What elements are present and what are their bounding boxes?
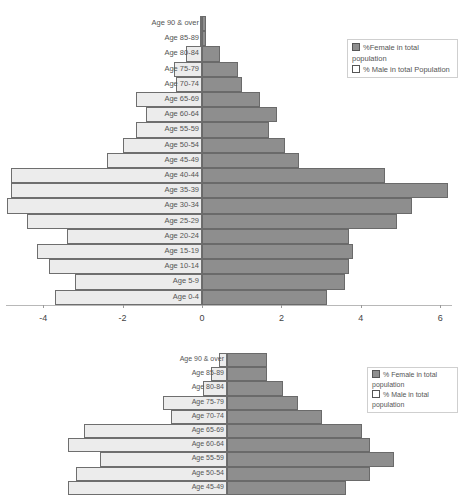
female-bar [202, 138, 285, 153]
female-bar [202, 244, 353, 259]
female-swatch-icon [352, 43, 360, 51]
age-group-label: Age 55-59 [192, 454, 224, 461]
female-bar [202, 122, 269, 137]
pyramid-row: Age 40-44 [0, 168, 458, 183]
male-swatch-icon [372, 390, 380, 398]
age-group-label: Age 30-34 [164, 200, 199, 209]
female-bar [227, 424, 362, 438]
legend-label-male: % Male in total population [372, 391, 429, 408]
x-tick-label: -4 [39, 313, 47, 323]
female-bar [202, 153, 299, 168]
age-group-label: Age 25-29 [164, 216, 199, 225]
legend-item-female: %Female in total population [352, 42, 453, 64]
female-bar [202, 274, 345, 289]
legend-item-male: % Male in total population [372, 390, 453, 410]
pyramid-row: Age 65-69 [0, 424, 458, 438]
female-bar [227, 396, 298, 410]
pyramid-row: Age 50-54 [0, 138, 458, 153]
age-group-label: Age 45-49 [192, 483, 224, 490]
legend-item-male: % Male in total Population [352, 64, 453, 75]
female-bar [202, 46, 220, 61]
age-group-label: Age 80-84 [164, 48, 199, 57]
legend-1: %Female in total population % Male in to… [347, 39, 458, 78]
pyramid-row: Age 55-59 [0, 122, 458, 137]
age-group-label: Age 20-24 [164, 231, 199, 240]
pyramid-row: Age 65-69 [0, 92, 458, 107]
pyramid-row: Age 35-39 [0, 183, 458, 198]
age-group-label: Age 15-19 [164, 246, 199, 255]
age-group-label: Age 80-84 [192, 383, 224, 390]
female-bar [202, 92, 260, 107]
legend-item-female: % Female in total population [372, 370, 453, 390]
male-swatch-icon [352, 65, 360, 73]
legend-label-male: % Male in total Population [363, 65, 450, 74]
pyramid-row: Age 30-34 [0, 198, 458, 213]
female-bar [227, 410, 322, 424]
x-tick-label: 4 [358, 313, 363, 323]
pyramid-row: Age 70-74 [0, 77, 458, 92]
population-pyramid-2: Age 90 & overAge 85-89Age 80-84Age 75-79… [0, 340, 458, 490]
age-group-label: Age 35-39 [164, 185, 199, 194]
female-bar [227, 452, 394, 466]
age-group-label: Age 90 & over [180, 355, 224, 362]
pyramid-row: Age 25-29 [0, 214, 458, 229]
pyramid-row: Age 60-64 [0, 107, 458, 122]
female-bar [202, 31, 206, 46]
female-bar [202, 290, 327, 305]
x-tick-label: 2 [279, 313, 284, 323]
age-group-label: Age 70-74 [164, 79, 199, 88]
pyramid-row: Age 10-14 [0, 259, 458, 274]
female-bar [227, 353, 267, 367]
female-bar [202, 62, 238, 77]
tick-mark [123, 305, 124, 308]
tick-mark [361, 305, 362, 308]
pyramid-row: Age 45-49 [0, 481, 458, 495]
pyramid-row: Age 15-19 [0, 244, 458, 259]
female-bar [202, 16, 206, 31]
legend-label-female: %Female in total population [352, 43, 419, 63]
female-bar [202, 259, 349, 274]
pyramid-row: Age 0-4 [0, 290, 458, 305]
pyramid-row: Age 90 & over [0, 16, 458, 31]
pyramid-row: Age 20-24 [0, 229, 458, 244]
age-group-label: Age 65-69 [164, 94, 199, 103]
pyramid-row: Age 60-64 [0, 438, 458, 452]
female-bar [202, 168, 385, 183]
age-group-label: Age 65-69 [192, 426, 224, 433]
age-group-label: Age 5-9 [173, 276, 199, 285]
age-group-label: Age 0-4 [173, 292, 199, 301]
x-tick-label: 0 [199, 313, 204, 323]
pyramid-row: Age 55-59 [0, 452, 458, 466]
female-swatch-icon [372, 370, 380, 378]
female-bar [202, 214, 397, 229]
female-bar [202, 107, 277, 122]
age-group-label: Age 10-14 [164, 261, 199, 270]
legend-label-female: % Female in total population [372, 371, 437, 388]
tick-mark [440, 305, 441, 308]
age-group-label: Age 50-54 [192, 469, 224, 476]
age-group-label: Age 75-79 [164, 64, 199, 73]
age-group-label: Age 85-89 [164, 33, 199, 42]
pyramid-row: Age 50-54 [0, 467, 458, 481]
pyramid-row: Age 90 & over [0, 353, 458, 367]
legend-2: % Female in total population % Male in t… [367, 367, 458, 413]
age-group-label: Age 60-64 [192, 440, 224, 447]
age-group-label: Age 40-44 [164, 170, 199, 179]
age-group-label: Age 85-89 [192, 369, 224, 376]
female-bar [202, 229, 349, 244]
x-axis [6, 305, 452, 306]
tick-mark [281, 305, 282, 308]
age-group-label: Age 90 & over [151, 18, 199, 27]
pyramid-row: Age 45-49 [0, 153, 458, 168]
pyramid-row: Age 5-9 [0, 274, 458, 289]
female-bar [227, 381, 283, 395]
female-bar [202, 77, 242, 92]
tick-mark [43, 305, 44, 308]
age-group-label: Age 75-79 [192, 398, 224, 405]
female-bar [227, 481, 346, 495]
age-group-label: Age 60-64 [164, 109, 199, 118]
age-group-label: Age 45-49 [164, 155, 199, 164]
female-bar [227, 438, 370, 452]
x-tick-label: -2 [119, 313, 127, 323]
age-group-label: Age 70-74 [192, 412, 224, 419]
